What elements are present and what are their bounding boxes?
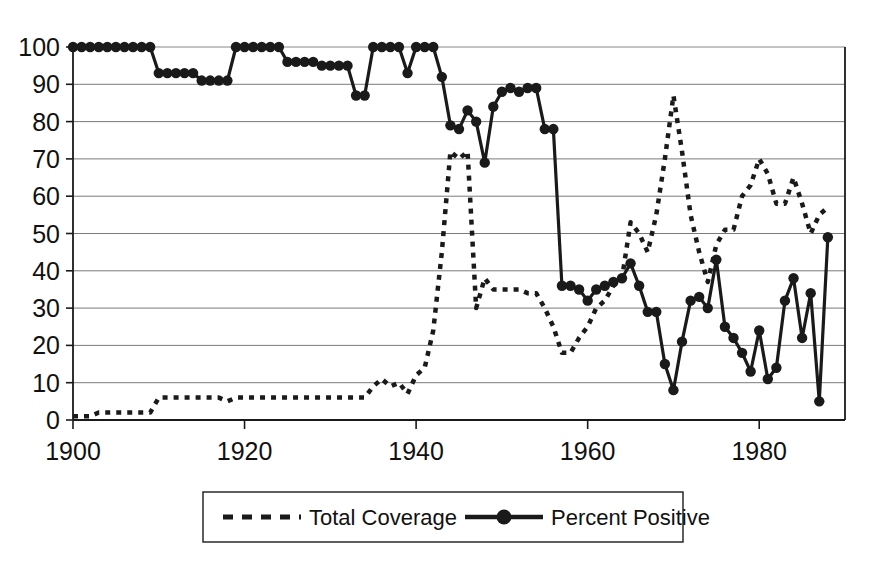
y-axis-tick-label: 0 <box>46 406 60 434</box>
data-point-marker <box>814 396 824 406</box>
data-point-marker <box>754 325 764 335</box>
data-point-marker <box>359 90 369 100</box>
x-axis-tick-label: 1940 <box>388 437 444 465</box>
chart-page: 1009080706050403020100 19001920194019601… <box>0 0 876 575</box>
data-point-marker <box>771 363 781 373</box>
data-point-marker <box>745 366 755 376</box>
series-line-2 <box>73 47 828 401</box>
data-point-marker <box>188 68 198 78</box>
chart-figure: 1009080706050403020100 19001920194019601… <box>0 0 876 575</box>
data-point-marker <box>668 385 678 395</box>
chart-legend: Total CoveragePercent Positive <box>203 492 710 542</box>
data-point-marker <box>805 288 815 298</box>
legend-label-percent-positive: Percent Positive <box>551 505 710 530</box>
data-point-marker <box>797 333 807 343</box>
data-point-marker <box>711 254 721 264</box>
data-point-marker <box>454 124 464 134</box>
data-point-marker <box>720 322 730 332</box>
data-point-marker <box>480 157 490 167</box>
gridlines <box>66 47 845 420</box>
data-point-marker <box>428 42 438 52</box>
data-point-marker <box>703 303 713 313</box>
data-point-marker <box>617 273 627 283</box>
x-axis-tick-label: 1960 <box>560 437 616 465</box>
data-point-marker <box>342 60 352 70</box>
y-axis-tick-labels: 1009080706050403020100 <box>18 33 60 434</box>
data-point-marker <box>737 348 747 358</box>
data-point-marker <box>634 281 644 291</box>
data-point-marker <box>531 83 541 93</box>
data-point-marker <box>651 307 661 317</box>
data-point-marker <box>582 295 592 305</box>
data-point-marker <box>437 72 447 82</box>
y-axis-tick-label: 10 <box>32 369 60 397</box>
data-point-marker <box>763 374 773 384</box>
data-point-marker <box>471 116 481 126</box>
data-point-marker <box>677 336 687 346</box>
y-axis-tick-label: 60 <box>32 182 60 210</box>
data-point-marker <box>728 333 738 343</box>
x-axis-tick-label: 1980 <box>731 437 787 465</box>
data-point-marker <box>625 258 635 268</box>
data-point-marker <box>694 292 704 302</box>
data-point-marker <box>548 124 558 134</box>
data-point-marker <box>488 101 498 111</box>
x-axis-tick-label: 1920 <box>217 437 273 465</box>
y-axis-tick-label: 50 <box>32 220 60 248</box>
x-axis-tick-label: 1900 <box>45 437 101 465</box>
data-point-marker <box>780 295 790 305</box>
chart-canvas: 1009080706050403020100 19001920194019601… <box>0 0 876 575</box>
data-point-marker <box>222 75 232 85</box>
x-axis-tick-labels: 19001920194019601980 <box>45 420 787 465</box>
data-point-marker <box>394 42 404 52</box>
data-point-marker <box>660 359 670 369</box>
y-axis-tick-label: 100 <box>18 33 60 61</box>
data-point-marker <box>402 68 412 78</box>
y-axis-tick-label: 70 <box>32 145 60 173</box>
data-point-marker <box>823 232 833 242</box>
y-axis-tick-label: 20 <box>32 331 60 359</box>
data-point-marker <box>574 284 584 294</box>
data-point-marker <box>462 105 472 115</box>
legend-marker-dot <box>497 510 512 525</box>
legend-label-total-coverage: Total Coverage <box>309 505 457 530</box>
data-point-marker <box>145 42 155 52</box>
y-axis-tick-label: 80 <box>32 108 60 136</box>
data-point-marker <box>274 42 284 52</box>
data-point-marker <box>788 273 798 283</box>
y-axis-tick-label: 90 <box>32 70 60 98</box>
y-axis-tick-label: 30 <box>32 294 60 322</box>
y-axis-tick-label: 40 <box>32 257 60 285</box>
data-series <box>68 42 833 416</box>
